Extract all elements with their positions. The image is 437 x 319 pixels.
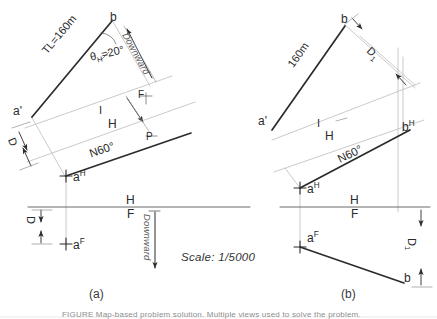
panel-a-dim-d-vertical-label: D [25,216,36,224]
panel-b-fold-h-label: H [350,194,359,206]
panel-b-point-b-top-label: b [341,13,348,25]
panel-b-fold-f-label: F [351,208,358,220]
panel-b-point-bh-sup: H [409,119,415,128]
panel-a-point-a-prime-label: a' [13,105,22,117]
panel-b-dim-d1-vertical-label: D1 [403,238,417,250]
panel-b-point-ah-label: aH [307,182,320,195]
panel-b-aux-fold-top-label: I [317,118,320,129]
panel-b-point-ah-sup: H [314,181,320,190]
panel-a-fold-f-label: F [127,208,134,220]
panel-b-bearing-line [300,130,410,188]
panel-b-front-view-line [300,247,404,283]
caption-b: (b) [341,288,356,300]
caption-a: (a) [89,288,104,300]
panel-a-aux-fold-top-label: I [99,105,102,116]
panel-a-point-af-base: a [73,238,80,252]
panel-b-point-af-base: a [307,231,314,245]
scale-label: Scale: 1/5000 [181,252,255,264]
panel-a-fold-h-label: H [126,194,135,206]
panel-a-marker-f-label: F [138,90,144,100]
panel-b-aux-fold-bottom-label: H [325,130,334,142]
figure-canvas: b a' TL=160m θH=20° Downward I H F P N60… [0,0,437,319]
panel-a-point-b-label: b [110,11,117,23]
panel-a-point-af-label: aF [73,238,85,251]
panel-b-dim-d1-vertical-base: D [406,238,418,246]
panel-a-point-ah-label: aH [73,170,86,183]
panel-b-point-af-sup: F [314,230,319,239]
panel-b-true-length-line [272,26,345,130]
panel-b-dim-d1-vertical-sub: 1 [403,246,412,250]
panel-b-point-af-label: aF [307,231,319,244]
panel-a-marker-p-label: P [146,132,153,142]
panel-a-geometry [12,20,250,268]
panel-a-true-length-line [32,21,112,117]
panel-b-point-a-prime-label: a' [258,115,267,127]
panel-a-point-ah-sup: H [80,169,86,178]
figure-bottom-note: FIGURE Map-based problem solution. Multi… [62,311,402,319]
panel-a-aux-fold-bottom-label: H [108,118,117,130]
panel-a-point-ah-base: a [73,170,80,184]
panel-a-downward-label-vertical: Downward [143,214,153,260]
panel-b-point-bh-label: bH [402,120,415,133]
panel-a-point-af-sup: F [80,237,85,246]
panel-b-point-ah-base: a [307,182,314,196]
panel-b-point-b-bottom-label: b [404,272,411,284]
panel-b-point-bh-base: b [402,120,409,134]
